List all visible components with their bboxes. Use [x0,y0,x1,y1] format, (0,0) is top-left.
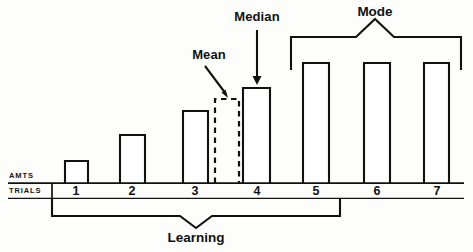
mean-annotation-label: Mean [192,48,226,61]
mode-annotation-label: Mode [357,5,392,19]
bar-3 [183,111,208,183]
x-tick-7: 7 [434,185,441,198]
x-tick-2: 2 [129,185,136,198]
x-tick-3: 3 [192,185,199,198]
learning-brace [52,199,340,228]
x-tick-4: 4 [254,185,261,198]
bar-7 [424,63,449,183]
mean-arrow [205,66,228,98]
bar-4 [243,88,270,183]
x-axis-label: TRIALS [9,187,41,195]
bar-2 [120,135,145,183]
x-tick-1: 1 [73,185,80,198]
bar-5 [303,63,329,183]
median-arrow [253,30,262,85]
median-annotation-label: Median [234,10,279,23]
bar-mean-dashed [215,99,239,183]
figure-canvas: AMTS TRIALS 1 2 3 4 5 6 7 Mean Median Mo… [0,0,473,252]
bar-6 [364,63,390,183]
learning-annotation-label: Learning [167,231,224,245]
y-axis-label: AMTS [9,172,34,180]
bar-1 [65,161,88,183]
x-tick-6: 6 [374,185,381,198]
x-tick-5: 5 [313,185,320,198]
bar-chart-svg [0,0,473,252]
